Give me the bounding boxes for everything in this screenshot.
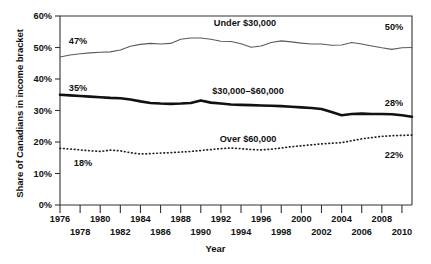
x-tick-label: 1998	[271, 227, 291, 237]
x-tick-label: 1976	[50, 214, 70, 224]
x-tick-label: 2004	[331, 214, 352, 224]
series-name-label: Under $30,000	[214, 18, 276, 28]
x-tick-label: 2006	[351, 227, 371, 237]
x-tick-label: 1990	[191, 227, 211, 237]
series-start-value-label: 18%	[74, 158, 92, 168]
y-tick-label: 60%	[34, 11, 52, 21]
x-axis-ticks: 1976198019841988199219962000200420081978…	[50, 205, 412, 237]
x-tick-label: 1994	[231, 227, 252, 237]
x-tick-label: 2002	[311, 227, 331, 237]
x-tick-label: 1986	[150, 227, 170, 237]
chart-figure: Share of Canadians in income bracket Yea…	[0, 0, 431, 264]
y-tick-label: 50%	[34, 43, 52, 53]
y-tick-label: 20%	[34, 137, 52, 147]
y-tick-label: 30%	[34, 106, 52, 116]
y-tick-label: 10%	[34, 169, 52, 179]
series-annotations: 47%50%35%28%18%22%Under $30,000$30,000–$…	[69, 18, 403, 168]
series-start-value-label: 35%	[69, 83, 87, 93]
series-line	[60, 38, 412, 57]
x-tick-label: 1992	[211, 214, 231, 224]
plot-frame	[60, 16, 412, 205]
y-axis-title: Share of Canadians in income bracket	[14, 19, 25, 209]
x-tick-label: 2010	[392, 227, 412, 237]
series-start-value-label: 47%	[69, 36, 87, 46]
x-tick-label: 1978	[70, 227, 90, 237]
x-tick-label: 1988	[170, 214, 190, 224]
x-tick-label: 1996	[251, 214, 271, 224]
y-tick-label: 0%	[39, 200, 52, 210]
x-tick-label: 1982	[110, 227, 130, 237]
x-tick-label: 2000	[291, 214, 311, 224]
series-end-value-label: 22%	[385, 150, 403, 160]
x-tick-label: 2008	[372, 214, 392, 224]
series-line	[60, 95, 412, 117]
series-name-label: $30,000–$60,000	[212, 86, 284, 96]
x-axis-title: Year	[0, 243, 431, 254]
x-tick-label: 1984	[130, 214, 151, 224]
y-axis-ticks: 0%10%20%30%40%50%60%	[34, 11, 60, 210]
series-end-value-label: 28%	[385, 98, 403, 108]
y-tick-label: 40%	[34, 74, 52, 84]
line-chart-plot: 0%10%20%30%40%50%60% 1976198019841988199…	[0, 0, 431, 264]
x-tick-label: 1980	[90, 214, 110, 224]
series-end-value-label: 50%	[385, 22, 403, 32]
series-name-label: Over $60,000	[220, 134, 277, 144]
